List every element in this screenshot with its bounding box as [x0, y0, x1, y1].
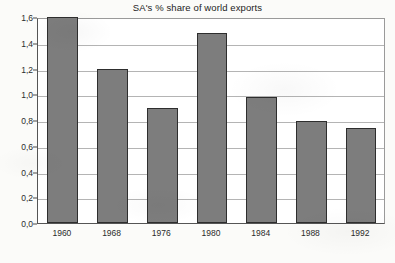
chart-title: SA's % share of world exports: [0, 2, 395, 13]
bar-1976: [147, 108, 178, 223]
y-axis-tick-mark: [33, 95, 37, 96]
x-axis-tick-labels: 1960196819761980198419881992: [37, 228, 385, 244]
x-axis-tick-label-1980: 1980: [202, 228, 221, 238]
bar-1984: [246, 97, 277, 223]
y-axis-tick-mark: [33, 18, 37, 19]
x-axis-tick-label-1984: 1984: [251, 228, 270, 238]
x-axis-tick-label-1976: 1976: [152, 228, 171, 238]
y-axis-tick-mark: [33, 69, 37, 70]
bar-1988: [296, 121, 327, 223]
bar-1980: [197, 33, 228, 224]
x-axis-tick-label-1988: 1988: [301, 228, 320, 238]
bars-series: [38, 19, 384, 223]
bar-1960: [47, 17, 78, 223]
y-axis-tick-mark: [33, 172, 37, 173]
x-axis-tick-label-1960: 1960: [52, 228, 71, 238]
x-axis-tick-label-1992: 1992: [351, 228, 370, 238]
plot-area: [37, 18, 385, 224]
y-axis-tick-mark: [33, 198, 37, 199]
bar-1968: [97, 69, 128, 224]
y-axis-tick-mark: [33, 121, 37, 122]
y-axis-tick-marks: [0, 18, 40, 224]
bar-chart-figure: SA's % share of world exports 0,00,20,40…: [0, 0, 395, 263]
x-axis-tick-label-1968: 1968: [102, 228, 121, 238]
y-axis-tick-mark: [33, 43, 37, 44]
y-axis-tick-mark: [33, 146, 37, 147]
y-axis-tick-mark: [33, 224, 37, 225]
bar-1992: [346, 128, 377, 223]
